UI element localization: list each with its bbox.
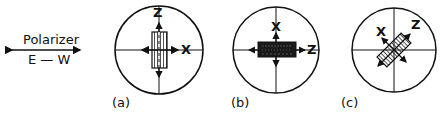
axis-label-x: X	[181, 42, 191, 57]
axis-label-z: Z	[307, 42, 316, 57]
axis-label-x: X	[376, 24, 386, 39]
polarizer-label: Polarizer	[23, 32, 79, 47]
polarizer-direction: E — W	[28, 52, 70, 67]
caption-b: (b)	[231, 95, 249, 110]
caption-a: (a)	[112, 95, 130, 110]
axis-label-z: Z	[411, 17, 420, 32]
axis-label-x: X	[271, 19, 281, 34]
axis-label-z: Z	[153, 5, 162, 20]
panel-c	[352, 8, 436, 92]
caption-c: (c)	[341, 95, 358, 110]
